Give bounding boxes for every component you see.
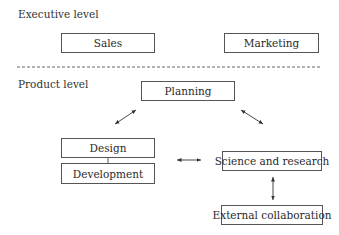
arrow-planning-science (241, 110, 263, 124)
sales-box: Sales (61, 33, 155, 53)
product-level-label: Product level (18, 78, 88, 90)
development-box: Development (61, 163, 155, 184)
planning-box: Planning (141, 81, 235, 101)
marketing-box: Marketing (224, 33, 319, 53)
arrow-planning-design (115, 110, 136, 124)
executive-level-label: Executive level (18, 8, 99, 20)
external-collaboration-box: External collaboration (221, 205, 323, 225)
design-box: Design (61, 138, 155, 158)
science-research-box: Science and research (222, 151, 322, 171)
